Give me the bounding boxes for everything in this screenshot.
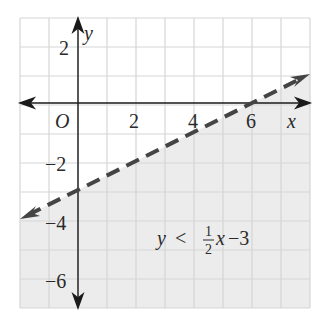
- x-tick-4: 4: [188, 110, 198, 132]
- inequality-graph: y x O 2 4 6 2 −2 −4 −6 y < 1 2 x −3: [0, 0, 329, 325]
- x-tick-6: 6: [246, 110, 256, 132]
- origin-label: O: [55, 110, 69, 132]
- y-tick-neg6: −6: [45, 270, 66, 292]
- y-tick-2: 2: [59, 37, 69, 59]
- fraction-numerator: 1: [205, 224, 212, 239]
- inequality-constant: −3: [228, 227, 249, 249]
- inequality-variable: x: [215, 227, 225, 249]
- x-tick-2: 2: [129, 110, 139, 132]
- y-axis-label: y: [82, 22, 93, 45]
- fraction-denominator: 2: [205, 242, 212, 257]
- inequality-lhs: y: [155, 227, 166, 250]
- inequality-operator: <: [175, 227, 186, 249]
- x-axis-label: x: [286, 110, 296, 132]
- y-tick-neg4: −4: [45, 212, 66, 234]
- y-tick-neg2: −2: [45, 153, 66, 175]
